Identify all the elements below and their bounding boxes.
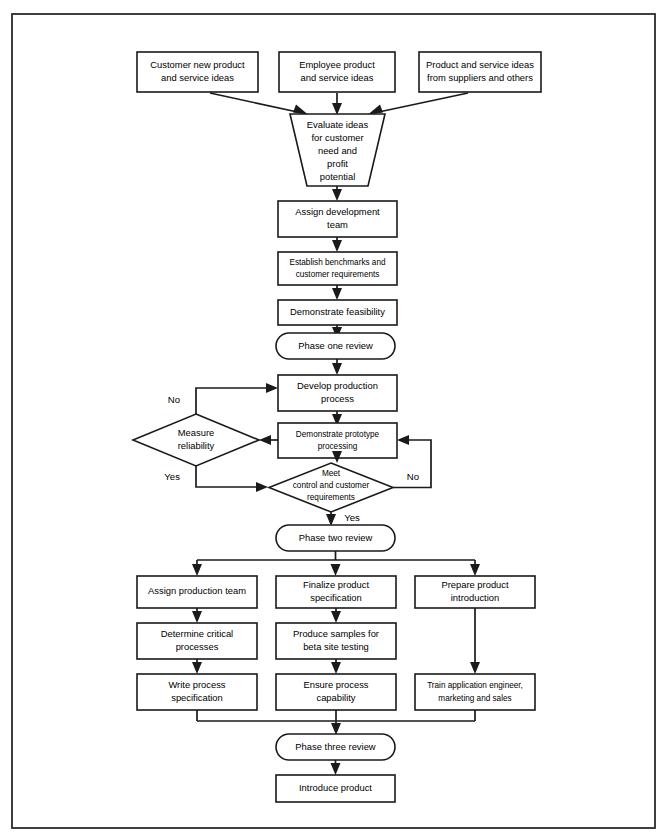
prepare-line1: Prepare product xyxy=(441,579,509,590)
connector-produce-samples-to-ensure xyxy=(331,659,341,674)
label-measure-yes: Yes xyxy=(164,471,180,482)
node-establish-benchmarks[interactable]: Establish benchmarks and customer requir… xyxy=(278,252,397,285)
employee-ideas-line2: and service ideas xyxy=(301,72,374,83)
node-train-application-engineer[interactable]: Train application engineer, marketing an… xyxy=(415,674,535,710)
node-demonstrate-feasibility[interactable]: Demonstrate feasibility xyxy=(278,300,397,325)
meet-line3: requirements xyxy=(307,493,355,502)
evaluate-line1: Evaluate ideas xyxy=(307,119,369,130)
connector-measure-yes-to-meet xyxy=(196,466,268,492)
introduce-product-label: Introduce product xyxy=(299,782,372,793)
connector-prepare-to-train xyxy=(470,608,480,674)
connector-supplier-to-evaluate xyxy=(368,93,468,115)
node-assign-development-team[interactable]: Assign development team xyxy=(278,201,397,237)
evaluate-line3: need and xyxy=(318,145,357,156)
connector-determine-to-write-process xyxy=(192,659,202,674)
measure-line2: reliability xyxy=(178,440,215,451)
measure-line1: Measure xyxy=(178,427,214,438)
prototype-line2: processing xyxy=(318,442,358,451)
label-meet-yes: Yes xyxy=(344,512,360,523)
connector-phase-three-to-introduce xyxy=(331,760,341,775)
connector-measure-no-to-develop xyxy=(196,383,278,414)
node-ensure-process-capability[interactable]: Ensure process capability xyxy=(276,674,396,710)
evaluate-line2: for customer xyxy=(311,132,363,143)
node-determine-critical-processes[interactable]: Determine critical processes xyxy=(137,623,257,659)
connector-finalize-to-produce-samples xyxy=(331,608,341,623)
train-line2: marketing and sales xyxy=(438,694,511,703)
customer-ideas-line1: Customer new product xyxy=(150,59,245,70)
connector-phase-two-review-branches xyxy=(192,551,480,576)
employee-ideas-line1: Employee product xyxy=(299,59,375,70)
ensure-line1: Ensure process xyxy=(303,679,368,690)
node-meet-control-customer-requirements[interactable]: Meet control and customer requirements xyxy=(269,463,393,512)
node-assign-production-team[interactable]: Assign production team xyxy=(137,576,257,608)
ensure-line2: capability xyxy=(316,692,355,703)
node-customer-ideas[interactable]: Customer new product and service ideas xyxy=(137,52,258,92)
meet-line2: control and customer xyxy=(293,481,370,490)
phase-three-review-label: Phase three review xyxy=(295,741,375,752)
evaluate-line5: potential xyxy=(320,171,355,182)
benchmarks-line1: Establish benchmarks and xyxy=(289,258,385,267)
assign-team-line1: Assign development xyxy=(295,206,380,217)
evaluate-line4: profit xyxy=(327,158,348,169)
connector-assign-team-to-benchmarks xyxy=(332,237,342,252)
node-finalize-product-specification[interactable]: Finalize product specification xyxy=(276,576,396,608)
feasibility-line1: Demonstrate feasibility xyxy=(290,306,385,317)
customer-ideas-line2: and service ideas xyxy=(161,72,234,83)
benchmarks-line2: customer requirements xyxy=(296,270,380,279)
node-develop-production-process[interactable]: Develop production process xyxy=(278,375,397,411)
phase-two-review-label: Phase two review xyxy=(299,532,373,543)
determine-line1: Determine critical xyxy=(161,628,233,639)
prepare-line2: introduction xyxy=(451,592,499,603)
connector-meet-yes-to-phase-two-review xyxy=(326,512,336,526)
supplier-ideas-line1: Product and service ideas xyxy=(426,59,534,70)
node-write-process-specification[interactable]: Write process specification xyxy=(137,674,257,710)
develop-line2: process xyxy=(321,393,354,404)
node-employee-ideas[interactable]: Employee product and service ideas xyxy=(279,52,395,92)
prototype-line1: Demonstrate prototype xyxy=(296,430,380,439)
node-phase-one-review[interactable]: Phase one review xyxy=(276,333,395,359)
flowchart-canvas: Customer new product and service ideas E… xyxy=(0,0,667,837)
write-process-line2: specification xyxy=(171,692,223,703)
connector-benchmarks-to-feasibility xyxy=(332,285,342,300)
phase-one-review-label: Phase one review xyxy=(298,340,373,351)
node-measure-reliability[interactable]: Measure reliability xyxy=(133,414,259,466)
connector-employee-to-evaluate xyxy=(332,93,342,115)
connector-phase-one-review-to-develop xyxy=(332,359,342,375)
produce-samples-line1: Produce samples for xyxy=(293,628,379,639)
label-measure-no: No xyxy=(168,394,180,405)
meet-line1: Meet xyxy=(322,469,341,478)
node-phase-two-review[interactable]: Phase two review xyxy=(276,525,395,551)
connector-columns-merge-to-phase-three xyxy=(197,710,475,735)
produce-samples-line2: beta site testing xyxy=(303,641,369,652)
finalize-line2: specification xyxy=(310,592,362,603)
assign-production-line1: Assign production team xyxy=(148,585,246,596)
node-supplier-ideas[interactable]: Product and service ideas from suppliers… xyxy=(419,52,541,92)
determine-line2: processes xyxy=(176,641,219,652)
write-process-line1: Write process xyxy=(168,679,225,690)
finalize-line1: Finalize product xyxy=(303,579,370,590)
develop-line1: Develop production xyxy=(297,380,378,391)
node-produce-beta-samples[interactable]: Produce samples for beta site testing xyxy=(276,623,396,659)
connector-customer-to-evaluate xyxy=(210,93,308,115)
connector-prototype-to-measure xyxy=(259,435,278,445)
node-prepare-product-introduction[interactable]: Prepare product introduction xyxy=(415,576,535,608)
node-phase-three-review[interactable]: Phase three review xyxy=(276,734,395,760)
assign-team-line2: team xyxy=(327,219,348,230)
flowchart-diagram: Customer new product and service ideas E… xyxy=(0,0,667,837)
label-meet-no: No xyxy=(407,471,419,482)
train-line1: Train application engineer, xyxy=(427,681,523,690)
supplier-ideas-line2: from suppliers and others xyxy=(427,72,533,83)
node-introduce-product[interactable]: Introduce product xyxy=(276,775,395,802)
connector-assign-production-to-determine xyxy=(192,608,202,623)
node-evaluate-ideas[interactable]: Evaluate ideas for customer need and pro… xyxy=(290,114,385,186)
connector-evaluate-to-assign-team xyxy=(332,186,342,201)
